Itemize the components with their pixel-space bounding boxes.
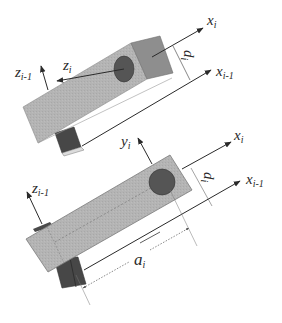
bottom-label-a-i: ai — [134, 251, 145, 270]
top-label-z-im1: zi-1 — [15, 65, 32, 82]
bottom-figure — [26, 138, 240, 305]
bottom-label-d-i: di — [199, 172, 216, 182]
bottom-label-x-im1: xi-1 — [246, 172, 264, 189]
top-joint-block — [55, 127, 84, 156]
top-z-im1-axis — [41, 66, 48, 90]
bottom-label-x-i: xi — [234, 128, 243, 145]
dh-diagram — [0, 0, 282, 323]
bottom-label-z-im1: zi-1 — [32, 181, 49, 198]
top-label-x-im1: xi-1 — [216, 64, 234, 81]
top-label-z-i: zi — [63, 58, 72, 75]
top-label-x-i: xi — [207, 13, 216, 30]
bottom-y-i-axis — [138, 138, 152, 164]
top-label-d-i: di — [179, 50, 196, 60]
bottom-x-i-axis — [182, 142, 231, 169]
bottom-a-i-dimension — [83, 262, 129, 288]
bottom-label-y-i: yi — [121, 134, 130, 151]
top-figure — [23, 28, 211, 156]
bottom-joint-circle — [149, 169, 175, 195]
